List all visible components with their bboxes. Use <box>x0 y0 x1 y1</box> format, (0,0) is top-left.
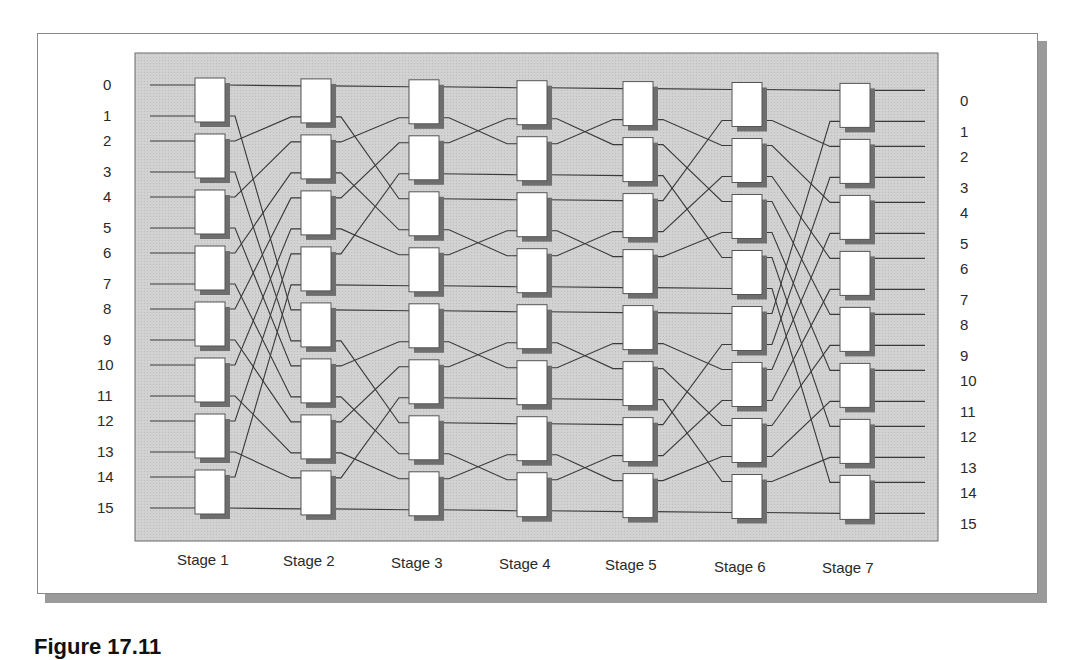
switch-box <box>409 360 439 404</box>
switch-box <box>409 136 439 180</box>
switch-box <box>195 190 225 234</box>
input-label: 4 <box>103 189 111 205</box>
switch-box <box>517 249 547 293</box>
switch-box <box>409 304 439 348</box>
switch-box <box>517 473 547 517</box>
stage-label: Stage 4 <box>499 555 551 572</box>
switch-box <box>623 138 653 182</box>
output-label: 5 <box>960 236 968 252</box>
stage-label: Stage 3 <box>391 554 443 571</box>
switch-box <box>517 81 547 125</box>
output-label: 6 <box>960 261 968 277</box>
input-label: 6 <box>103 245 111 261</box>
switch-box <box>840 419 870 463</box>
switch-box <box>623 474 653 518</box>
output-label: 10 <box>960 373 977 389</box>
switch-box <box>623 418 653 462</box>
output-label: 0 <box>960 93 968 109</box>
switch-box <box>409 248 439 292</box>
input-label: 3 <box>103 164 111 180</box>
output-label: 15 <box>960 516 977 532</box>
input-label: 7 <box>103 276 111 292</box>
output-label: 11 <box>960 404 976 420</box>
switch-box <box>840 363 870 407</box>
switch-box <box>517 361 547 405</box>
input-label: 12 <box>97 413 114 429</box>
switch-box <box>409 192 439 236</box>
stage-label: Stage 5 <box>605 556 657 573</box>
switch-box <box>732 251 762 295</box>
output-label: 7 <box>960 292 968 308</box>
switch-box <box>623 82 653 126</box>
input-label: 0 <box>103 77 111 93</box>
switch-box <box>623 306 653 350</box>
switch-box <box>195 358 225 402</box>
switch-box <box>301 135 331 179</box>
switch-box <box>301 79 331 123</box>
input-label: 13 <box>97 444 114 460</box>
switch-box <box>732 363 762 407</box>
input-label: 10 <box>97 357 114 373</box>
output-label: 9 <box>960 348 968 364</box>
stage-label: Stage 1 <box>177 551 229 568</box>
stage-label: Stage 2 <box>283 552 335 569</box>
switch-box <box>195 414 225 458</box>
output-label: 3 <box>960 180 968 196</box>
switch-box <box>409 416 439 460</box>
switch-box <box>840 251 870 295</box>
switch-box <box>732 195 762 239</box>
input-label: 5 <box>103 220 111 236</box>
switch-box <box>195 302 225 346</box>
switch-box <box>301 471 331 515</box>
switch-box <box>623 194 653 238</box>
input-label: 1 <box>103 108 111 124</box>
stage-label: Stage 6 <box>714 558 766 575</box>
input-label: 8 <box>103 301 111 317</box>
switch-box <box>195 78 225 122</box>
output-label: 1 <box>960 124 968 140</box>
switch-box <box>195 134 225 178</box>
switch-box <box>840 195 870 239</box>
figure-caption: Figure 17.11 <box>34 634 161 660</box>
switch-box <box>517 137 547 181</box>
switch-box <box>301 191 331 235</box>
output-label: 13 <box>960 460 977 476</box>
switch-box <box>301 359 331 403</box>
output-label: 2 <box>960 149 968 165</box>
input-label: 15 <box>97 500 114 516</box>
switch-box <box>517 417 547 461</box>
switch-box <box>732 83 762 127</box>
input-label: 11 <box>97 388 113 404</box>
stage-label: Stage 7 <box>822 559 874 576</box>
input-label: 9 <box>103 332 111 348</box>
input-label: 14 <box>97 469 114 485</box>
switch-box <box>301 247 331 291</box>
output-label: 14 <box>960 485 977 501</box>
switch-box <box>840 83 870 127</box>
switch-box <box>840 475 870 519</box>
switch-box <box>517 193 547 237</box>
switch-box <box>840 139 870 183</box>
output-label: 4 <box>960 205 968 221</box>
switch-box <box>301 303 331 347</box>
switch-box <box>732 419 762 463</box>
switch-box <box>732 139 762 183</box>
switch-box <box>623 362 653 406</box>
input-label: 2 <box>103 133 111 149</box>
switch-box <box>517 305 547 349</box>
switch-box <box>301 415 331 459</box>
output-label: 8 <box>960 317 968 333</box>
switch-box <box>195 470 225 514</box>
output-label: 12 <box>960 429 977 445</box>
switch-box <box>840 307 870 351</box>
switch-box <box>409 80 439 124</box>
switch-box <box>732 475 762 519</box>
switch-box <box>732 307 762 351</box>
switch-box <box>623 250 653 294</box>
switch-box <box>409 472 439 516</box>
switch-box <box>195 246 225 290</box>
